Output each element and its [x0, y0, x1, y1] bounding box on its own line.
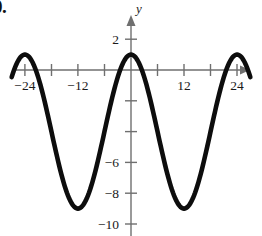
coordinate-plane-svg: y −24 −12 12 24 2 −6 −8 −10 — [0, 0, 262, 236]
y-axis-label: y — [134, 1, 142, 16]
x-tick-label-24: 24 — [230, 78, 244, 93]
y-tick-label--6: −6 — [105, 155, 120, 170]
x-tick-label--12: −12 — [67, 78, 88, 93]
y-axis-arrow-icon — [127, 15, 136, 26]
y-tick-label--10: −10 — [98, 217, 119, 232]
x-tick-label--24: −24 — [14, 78, 35, 93]
graph-figure: y −24 −12 12 24 2 −6 −8 −10 — [0, 0, 262, 236]
y-tick-label-2: 2 — [112, 32, 119, 47]
y-tick-label--8: −8 — [105, 186, 120, 201]
x-tick-label-12: 12 — [177, 78, 191, 93]
